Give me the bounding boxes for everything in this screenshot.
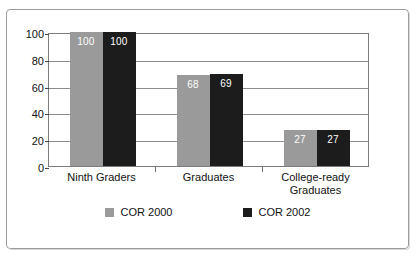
bar-value-label: 68 bbox=[177, 80, 210, 90]
x-category-label-line: Ninth Graders bbox=[48, 171, 155, 184]
bar-group: 6869 bbox=[156, 34, 263, 166]
legend-swatch-icon bbox=[105, 208, 114, 217]
x-axis-tick bbox=[262, 167, 263, 172]
bar-group: 2727 bbox=[263, 34, 370, 166]
legend-label: COR 2000 bbox=[121, 207, 173, 218]
bar-value-label: 69 bbox=[210, 79, 243, 89]
y-tick-mark bbox=[45, 168, 49, 169]
y-tick-label: 100 bbox=[26, 29, 44, 40]
y-tick-label: 40 bbox=[32, 109, 44, 120]
bar-value-label: 27 bbox=[317, 135, 350, 145]
y-tick-label: 60 bbox=[32, 82, 44, 93]
plot-area: 020406080100 10010068692727 bbox=[48, 33, 369, 167]
chart-screenshot: 020406080100 10010068692727 Ninth Grader… bbox=[0, 0, 417, 259]
legend-swatch-icon bbox=[243, 208, 252, 217]
legend-label: COR 2002 bbox=[259, 207, 311, 218]
bar-chart: 020406080100 10010068692727 Ninth Grader… bbox=[6, 9, 409, 249]
bar: 69 bbox=[210, 74, 243, 166]
bar: 27 bbox=[317, 130, 350, 166]
y-tick-label: 20 bbox=[32, 136, 44, 147]
x-category-label: College-readyGraduates bbox=[262, 171, 369, 197]
bar-group: 100100 bbox=[49, 34, 156, 166]
x-category-label: Graduates bbox=[155, 171, 262, 184]
bar: 100 bbox=[70, 32, 103, 166]
x-category-label-line: Graduates bbox=[262, 184, 369, 197]
bar: 27 bbox=[284, 130, 317, 166]
x-category-label: Ninth Graders bbox=[48, 171, 155, 184]
legend-item[interactable]: COR 2002 bbox=[243, 207, 311, 218]
y-tick-label: 0 bbox=[38, 163, 44, 174]
bar-value-label: 27 bbox=[284, 135, 317, 145]
y-tick-label: 80 bbox=[32, 55, 44, 66]
chart-legend: COR 2000COR 2002 bbox=[6, 207, 409, 218]
legend-item[interactable]: COR 2000 bbox=[105, 207, 173, 218]
bar: 68 bbox=[177, 75, 210, 166]
bar: 100 bbox=[103, 32, 136, 166]
x-axis-tick bbox=[155, 167, 156, 172]
bar-value-label: 100 bbox=[70, 37, 103, 47]
x-category-label-line: Graduates bbox=[155, 171, 262, 184]
x-category-label-line: College-ready bbox=[262, 171, 369, 184]
bar-value-label: 100 bbox=[103, 37, 136, 47]
bars-layer: 10010068692727 bbox=[49, 34, 368, 166]
